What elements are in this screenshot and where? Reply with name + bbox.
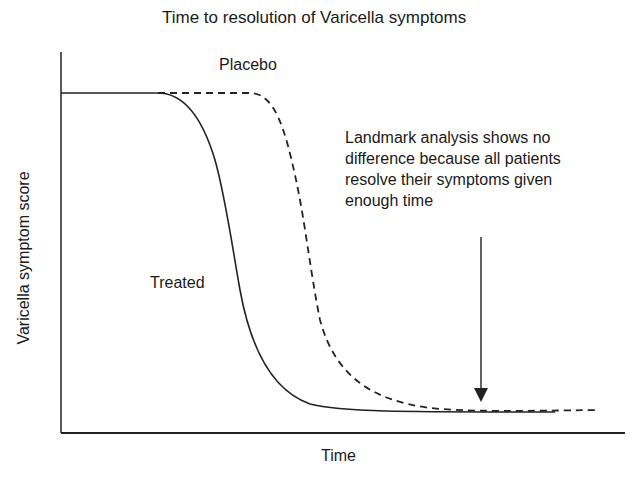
annotation-line: difference because all patients bbox=[345, 148, 641, 169]
plot-area bbox=[0, 0, 641, 480]
y-axis-label: Varicella symptom score bbox=[15, 171, 33, 344]
placebo-label: Placebo bbox=[219, 56, 277, 74]
treated-label: Treated bbox=[150, 274, 205, 292]
annotation-line: enough time bbox=[345, 190, 641, 211]
annotation-line: resolve their symptoms given bbox=[345, 169, 641, 190]
landmark-annotation: Landmark analysis shows no difference be… bbox=[345, 127, 641, 211]
x-axis-label: Time bbox=[321, 447, 356, 465]
annotation-line: Landmark analysis shows no bbox=[345, 127, 641, 148]
arrow-head-icon bbox=[474, 388, 488, 402]
